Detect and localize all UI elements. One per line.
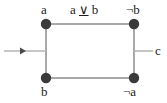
node-label-bottom-left: b [41, 85, 48, 98]
node-bottom-right[interactable] [129, 73, 139, 83]
edge-label-operand-right: b [92, 2, 99, 17]
output-label-c: c [155, 44, 161, 57]
node-label-bottom-right: ¬a [123, 85, 136, 98]
node-label-top-left: a [41, 3, 47, 16]
edge-label-operator-or-icon: ∨ [79, 2, 89, 17]
node-top-right[interactable] [129, 19, 139, 29]
edge-label-top: a ∨ b [70, 3, 98, 16]
node-label-top-right: ¬b [126, 3, 140, 16]
input-arrowhead-icon [20, 48, 26, 55]
node-bottom-left[interactable] [41, 73, 51, 83]
node-top-left[interactable] [41, 19, 51, 29]
logic-graph-diagram: a ¬b b ¬a a ∨ b c [0, 0, 167, 103]
